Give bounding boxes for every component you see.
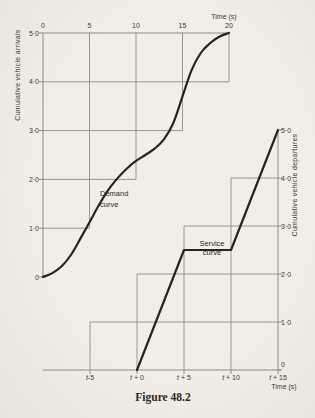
arrivals-y-tick-label: 2·0 — [15, 175, 39, 184]
arrivals-x-tick-label: 15 — [173, 21, 193, 30]
arrivals-x-tick-label: 10 — [126, 21, 146, 30]
departures-x-tick-label: t-5 — [73, 373, 107, 382]
arrivals-y-tick-label: 5·0 — [15, 29, 39, 38]
arrivals-y-tick-label: 0 — [15, 273, 39, 282]
departures-y-tick-label: 4·0 — [281, 174, 305, 183]
departures-time-axis-label: Time (s) — [264, 382, 304, 391]
demand-curve-label-line1: Demand — [100, 188, 128, 199]
arrivals-y-tick-label: 4·0 — [15, 77, 39, 86]
demand-curve-label-line2: curve — [100, 199, 128, 210]
departures-y-tick-label: 5·0 — [281, 126, 305, 135]
arrivals-time-axis-label: Time (s) — [205, 12, 243, 21]
service-curve-label: Service curve — [195, 239, 229, 257]
departures-y-tick-label: 1·0 — [281, 318, 305, 327]
demand-curve-label: Demand curve — [100, 188, 128, 210]
departures-x-tick-label: t + 5 — [167, 373, 201, 382]
arrivals-x-tick-label: 5 — [80, 21, 100, 30]
departures-x-tick-label: t + 0 — [120, 373, 154, 382]
cumulative-curves-plot — [0, 0, 315, 418]
arrivals-y-tick-label: 1·0 — [15, 224, 39, 233]
departures-y-tick-label: 3·0 — [281, 222, 305, 231]
departures-x-tick-label: t + 10 — [214, 373, 248, 382]
service-curve-label-line2: curve — [195, 248, 229, 257]
figure-48-2: Time (s) Cumulative vehicle arrivals Cum… — [0, 0, 315, 418]
service-curve-label-line1: Service — [195, 239, 229, 248]
figure-caption: Figure 48.2 — [110, 391, 216, 403]
departures-x-tick-label: t + 15 — [261, 373, 295, 382]
arrivals-x-tick-label: 20 — [219, 21, 239, 30]
departures-y-tick-label: 0 — [281, 360, 305, 369]
departures-y-axis-label: Cumulative vehicle departures — [291, 120, 301, 250]
departures-y-tick-label: 2·0 — [281, 270, 305, 279]
arrivals-y-tick-label: 3·0 — [15, 126, 39, 135]
